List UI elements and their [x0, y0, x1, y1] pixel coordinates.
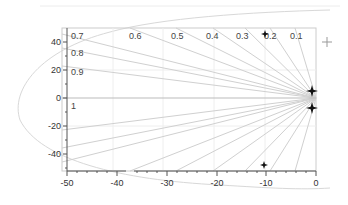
x-tick-label: -20	[210, 178, 223, 188]
x-tick-label: -50	[60, 178, 73, 188]
zeta-label: 0.2	[264, 31, 277, 41]
zeta-label: 0.3	[236, 31, 249, 41]
y-tick-label: -20	[48, 121, 61, 131]
y-tick-label: 0	[56, 93, 61, 103]
zeta-label: 0.7	[71, 31, 84, 41]
x-tick-label: -40	[110, 178, 123, 188]
pole-zero-plot: 40 20 0 -20 -40 -50 -40 -30 -20 -10 0 0.…	[0, 0, 348, 205]
y-tick-label: -40	[48, 149, 61, 159]
grid	[62, 28, 316, 171]
zeta-label: 0.1	[290, 31, 303, 41]
zeta-label: 1	[71, 101, 76, 111]
x-tick-label: -30	[160, 178, 173, 188]
plus-marker-icon	[322, 37, 332, 47]
x-axis	[67, 171, 316, 176]
y-tick-label: 40	[51, 37, 61, 47]
zeta-label: 0.5	[171, 31, 184, 41]
zeta-label: 0.8	[71, 48, 84, 58]
damping-ratio-lines	[62, 28, 316, 171]
x-tick-label: 0	[313, 178, 318, 188]
x-tick-label: -10	[259, 178, 272, 188]
zeta-label: 0.6	[129, 31, 142, 41]
pole-star-icon	[260, 161, 268, 169]
y-tick-label: 20	[51, 65, 61, 75]
plot-area	[62, 28, 316, 171]
zeta-label: 0.4	[206, 31, 219, 41]
zeta-label: 0.9	[71, 67, 84, 77]
